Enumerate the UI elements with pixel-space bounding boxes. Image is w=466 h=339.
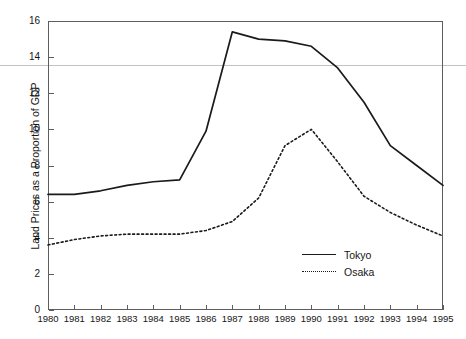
- x-tick-mark: [443, 305, 444, 310]
- y-tick-mark: [49, 274, 54, 275]
- x-tick-mark: [390, 305, 391, 310]
- y-tick-label: 10: [6, 124, 40, 134]
- legend-item-osaka: Osaka: [302, 263, 412, 280]
- x-tick-mark: [232, 305, 233, 310]
- legend-swatch-solid-icon: [302, 251, 336, 259]
- y-tick-mark: [49, 238, 54, 239]
- y-tick-label: 14: [6, 52, 40, 62]
- legend-label-osaka: Osaka: [344, 266, 374, 278]
- y-tick-mark: [49, 93, 54, 94]
- x-tick-mark: [417, 305, 418, 310]
- chart-legend: Tokyo Osaka: [302, 246, 412, 280]
- legend-label-tokyo: Tokyo: [344, 249, 371, 261]
- y-tick-mark: [49, 202, 54, 203]
- series-line-tokyo: [48, 32, 443, 195]
- y-tick-mark: [49, 21, 54, 22]
- y-tick-mark: [49, 166, 54, 167]
- y-tick-label: 16: [6, 16, 40, 26]
- x-tick-mark: [285, 305, 286, 310]
- x-tick-mark: [48, 305, 49, 310]
- x-tick-mark: [180, 305, 181, 310]
- x-tick-label: 1995: [428, 314, 458, 324]
- x-tick-mark: [153, 305, 154, 310]
- y-tick-mark: [49, 129, 54, 130]
- legend-item-tokyo: Tokyo: [302, 246, 412, 263]
- x-tick-mark: [338, 305, 339, 310]
- x-tick-mark: [206, 305, 207, 310]
- y-tick-label: 2: [6, 269, 40, 279]
- cropped-title-remnant: [150, 0, 270, 6]
- y-tick-label: 6: [6, 197, 40, 207]
- y-tick-mark: [49, 57, 54, 58]
- legend-swatch-dotted-icon: [302, 268, 336, 276]
- x-tick-mark: [364, 305, 365, 310]
- x-tick-mark: [74, 305, 75, 310]
- y-tick-mark: [49, 310, 54, 311]
- y-tick-label: 4: [6, 233, 40, 243]
- x-tick-mark: [311, 305, 312, 310]
- x-tick-mark: [259, 305, 260, 310]
- chart-figure: Land Prices as a Proportion of GDP 02468…: [0, 0, 466, 339]
- x-tick-mark: [127, 305, 128, 310]
- x-tick-mark: [101, 305, 102, 310]
- series-line-osaka: [48, 129, 443, 245]
- y-tick-label: 12: [6, 88, 40, 98]
- y-tick-label: 8: [6, 161, 40, 171]
